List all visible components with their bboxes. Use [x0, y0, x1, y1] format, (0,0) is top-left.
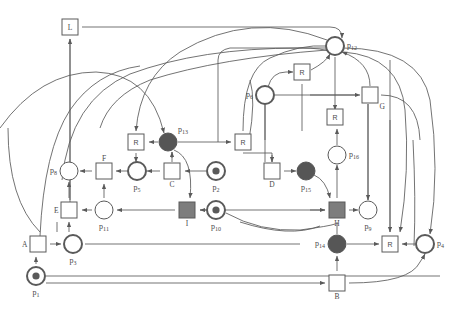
transition-label-t_A: A — [22, 240, 28, 249]
arc-B-to-p4-curve — [349, 254, 425, 283]
transition-label-t_R3: R — [299, 69, 304, 76]
place-label-p14: p14 — [315, 239, 325, 249]
place-p3[interactable] — [64, 235, 82, 253]
place-label-p15: p15 — [301, 183, 311, 193]
arc-p10-curve-right — [226, 213, 335, 230]
transition-label-t_R4: R — [332, 114, 337, 121]
transition-t_D[interactable] — [264, 163, 280, 179]
arc-p12-to-left-long — [100, 50, 327, 128]
transition-label-t_E: E — [54, 206, 59, 215]
place-p16[interactable] — [328, 146, 346, 164]
node-layer — [27, 19, 434, 291]
arc-R2-down-D — [243, 153, 272, 162]
place-label-p11: p11 — [99, 222, 109, 232]
arc-Gcol-down — [413, 140, 415, 246]
place-p12[interactable] — [326, 37, 344, 55]
place-label-p5: p5 — [134, 183, 141, 193]
place-p15[interactable] — [297, 162, 315, 180]
place-p11[interactable] — [95, 201, 113, 219]
place-label-p2: p2 — [213, 183, 220, 193]
transition-t_F[interactable] — [96, 163, 112, 179]
place-p14[interactable] — [328, 235, 346, 253]
transition-t_B[interactable] — [329, 275, 345, 291]
transition-label-t_H: H — [334, 219, 340, 228]
token-p2 — [212, 167, 219, 174]
transition-label-t_I: I — [186, 219, 189, 228]
place-p9[interactable] — [359, 201, 377, 219]
transition-label-t_C: C — [169, 180, 174, 189]
place-p6[interactable] — [256, 86, 274, 104]
arc-p15-to-H — [314, 175, 330, 198]
transition-label-t_D: D — [269, 180, 275, 189]
petri-net-canvas: p1p2p3p4p5p6p8p9p10p11p12p13p14p15p16LRR… — [0, 0, 464, 316]
place-label-p12: p12 — [347, 41, 357, 51]
place-label-p16: p16 — [349, 150, 359, 160]
place-p5[interactable] — [128, 162, 146, 180]
place-p8[interactable] — [60, 162, 78, 180]
token-p10 — [212, 206, 219, 213]
place-label-p9: p9 — [365, 222, 372, 232]
transition-t_H[interactable] — [329, 202, 345, 218]
token-p1 — [32, 272, 39, 279]
place-label-p3: p3 — [70, 256, 77, 266]
transition-label-t_F: F — [102, 154, 106, 163]
transition-label-t_L: L — [68, 23, 73, 32]
transition-t_I[interactable] — [179, 202, 195, 218]
arc-G-right-loop — [381, 95, 420, 140]
place-p13[interactable] — [159, 133, 177, 151]
arc-R2-up-long — [243, 46, 327, 131]
transition-t_C[interactable] — [164, 163, 180, 179]
arc-p6-to-R3 — [268, 72, 293, 87]
transition-label-t_G: G — [380, 102, 386, 111]
label-layer: p1p2p3p4p5p6p8p9p10p11p12p13p14p15p16LRR… — [22, 23, 444, 301]
transition-label-t_B: B — [334, 292, 339, 301]
petri-net-svg: p1p2p3p4p5p6p8p9p10p11p12p13p14p15p16LRR… — [0, 0, 464, 316]
arc-R2-up-arrow — [249, 80, 253, 140]
place-label-p8: p8 — [50, 166, 57, 176]
arc-left-to-p13 — [0, 72, 164, 133]
arc-p12-right-loop — [343, 48, 435, 234]
place-label-p4: p4 — [437, 239, 444, 249]
transition-label-t_R5: R — [387, 241, 392, 248]
transition-t_G[interactable] — [362, 87, 378, 103]
place-p4[interactable] — [416, 235, 434, 253]
place-label-p13: p13 — [178, 125, 188, 135]
transition-label-t_R1: R — [133, 139, 138, 146]
arc-G-to-p12 — [342, 52, 370, 86]
arc-far-left-big — [8, 128, 40, 232]
transition-t_E[interactable] — [61, 202, 77, 218]
place-label-p10: p10 — [211, 222, 221, 232]
transition-label-t_R2: R — [240, 139, 245, 146]
arc-R3-to-p12 — [311, 54, 330, 70]
transition-t_A[interactable] — [30, 236, 46, 252]
place-label-p1: p1 — [33, 288, 40, 298]
